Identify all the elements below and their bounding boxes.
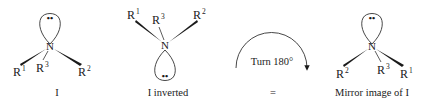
equals-sign: = (270, 87, 276, 98)
substituent-r2: R2 (336, 66, 349, 81)
wedge-bond-r2 (169, 20, 198, 42)
nitrogen-atom: N (368, 40, 376, 52)
caption-mirror-image: Mirror image of I (335, 87, 409, 98)
nitrogen-inversion-diagram: •• N R1 R3 R2 I R1 R3 R2 (0, 0, 423, 101)
lone-pair-dots: •• (47, 13, 53, 23)
nitrogen-atom: N (161, 39, 169, 51)
hash-bond-r3 (43, 51, 48, 60)
substituent-r1: R1 (127, 7, 140, 22)
caption-I-inverted: I inverted (148, 87, 189, 98)
substituent-r1: R1 (400, 66, 413, 81)
substituent-r3: R3 (377, 62, 390, 77)
hash-bond-r3 (375, 51, 381, 62)
rotation-operation: Turn 180° = (236, 32, 307, 98)
substituent-r2: R2 (193, 7, 206, 22)
substituent-r2: R2 (78, 64, 91, 79)
lone-pair-dots: •• (162, 71, 168, 81)
lone-pair-dots: •• (369, 13, 375, 23)
wedge-bond-r2 (54, 49, 82, 66)
substituent-r1: R1 (13, 64, 26, 79)
structure-mirror-image: •• N R2 R3 R1 Mirror image of I (335, 13, 413, 98)
structure-I-inverted: R1 R3 R2 N •• I inverted (127, 7, 206, 98)
nitrogen-atom: N (46, 40, 54, 52)
substituent-r3: R3 (36, 60, 49, 75)
wedge-bond-r2 (343, 49, 368, 67)
rotation-label: Turn 180° (251, 56, 294, 67)
structure-I: •• N R1 R3 R2 I (13, 13, 91, 98)
caption-I: I (55, 87, 59, 98)
substituent-r3: R3 (152, 12, 165, 27)
